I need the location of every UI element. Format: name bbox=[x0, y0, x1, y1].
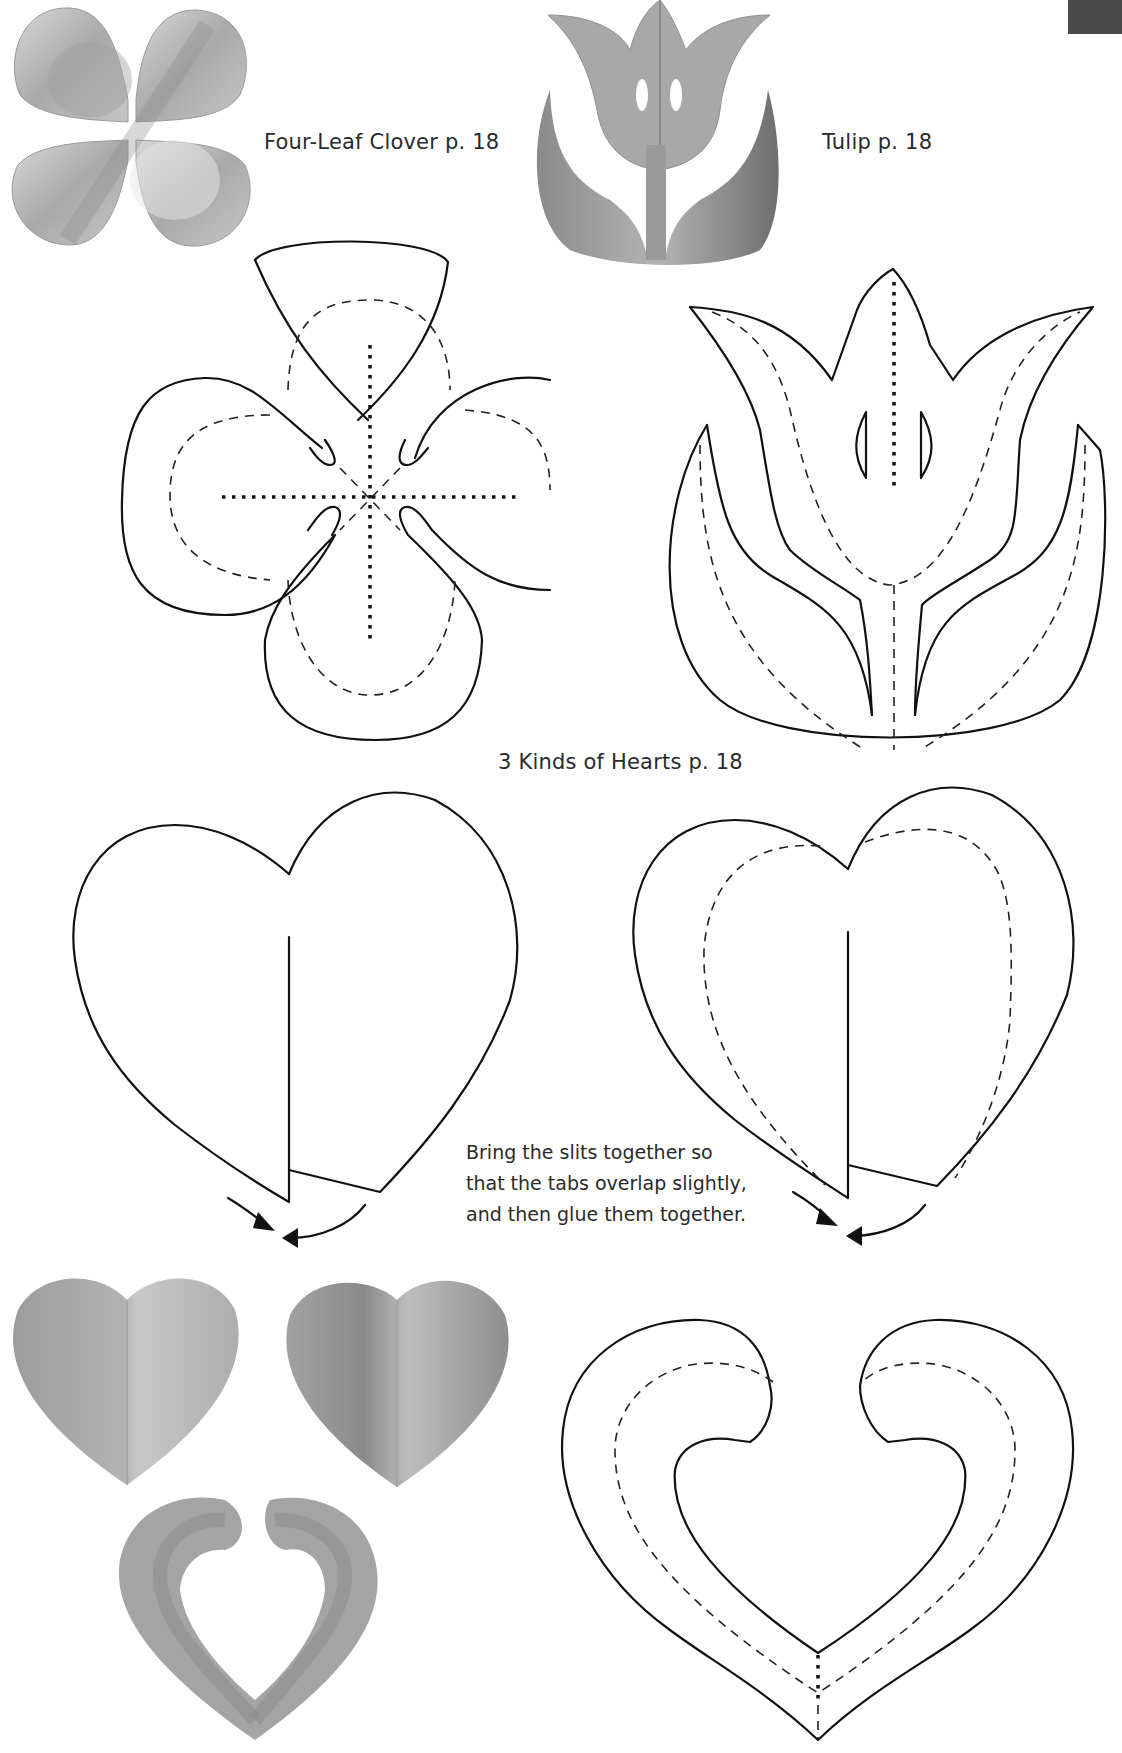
caption-tulip: Tulip p. 18 bbox=[822, 130, 932, 154]
page-number-tab bbox=[1068, 0, 1122, 34]
four-leaf-clover-pattern bbox=[110, 240, 550, 750]
heart-photo-1 bbox=[10, 1270, 260, 1500]
assembly-instructions: Bring the slits together so that the tab… bbox=[466, 1137, 747, 1230]
heart-pattern-slit bbox=[60, 780, 530, 1230]
heart-photo-2 bbox=[285, 1275, 535, 1505]
tulip-photo bbox=[520, 0, 790, 270]
four-leaf-clover-photo bbox=[0, 0, 260, 250]
instruction-line-2: that the tabs overlap slightly, bbox=[466, 1168, 747, 1199]
instruction-line-3: and then glue them together. bbox=[466, 1199, 747, 1230]
heart-pattern-open bbox=[560, 1250, 1100, 1750]
caption-three-kinds-of-hearts: 3 Kinds of Hearts p. 18 bbox=[498, 750, 743, 774]
caption-four-leaf-clover: Four-Leaf Clover p. 18 bbox=[264, 130, 499, 154]
instruction-line-1: Bring the slits together so bbox=[466, 1137, 747, 1168]
tulip-pattern bbox=[660, 260, 1120, 770]
heart-photo-3-open bbox=[110, 1490, 390, 1750]
